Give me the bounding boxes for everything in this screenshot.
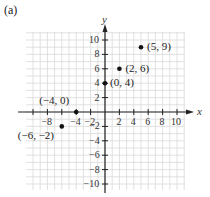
- x-tick-label: 6: [145, 117, 150, 127]
- data-point: [103, 81, 108, 86]
- y-tick-label: 2: [95, 93, 100, 103]
- y-tick-label: 6: [95, 64, 100, 74]
- y-tick-label: −10: [84, 179, 100, 189]
- y-axis-label: y: [102, 14, 107, 25]
- data-point: [117, 67, 122, 72]
- x-tick-label: 4: [131, 117, 136, 127]
- y-tick-label: 4: [95, 78, 100, 88]
- point-label: (−6, −2): [18, 130, 54, 141]
- point-label: (0, 4): [110, 77, 134, 88]
- data-point: [139, 45, 144, 50]
- y-tick-label: 10: [89, 35, 99, 45]
- y-tick-label: −8: [89, 165, 100, 175]
- x-tick-label: 10: [171, 117, 181, 127]
- x-tick-label: 8: [160, 117, 165, 127]
- x-axis-label: x: [197, 106, 202, 117]
- y-tick-label: 8: [95, 49, 100, 59]
- x-tick-label: −4: [70, 117, 81, 127]
- scatter-plot: [0, 0, 210, 197]
- point-label: (−4, 0): [39, 95, 69, 106]
- y-tick-label: −6: [89, 150, 100, 160]
- x-tick-label: 2: [116, 117, 121, 127]
- point-label: (2, 6): [125, 63, 149, 74]
- data-point: [74, 110, 79, 115]
- data-point: [60, 124, 65, 129]
- y-tick-label: −2: [89, 121, 100, 131]
- y-tick-label: −4: [89, 136, 100, 146]
- x-tick-label: −8: [41, 117, 52, 127]
- point-label: (5, 9): [147, 41, 171, 52]
